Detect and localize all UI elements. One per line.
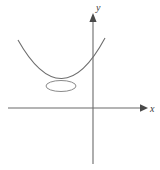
coordinate-plane-svg: y x [0,0,160,170]
parabola-curve [18,38,105,79]
x-axis-arrow-icon [140,104,148,111]
y-axis-arrow-icon [89,13,96,22]
x-axis-label: x [149,103,155,114]
vertex-ellipse [46,81,76,92]
math-figure: y x [0,0,160,170]
y-axis-label: y [95,2,101,13]
